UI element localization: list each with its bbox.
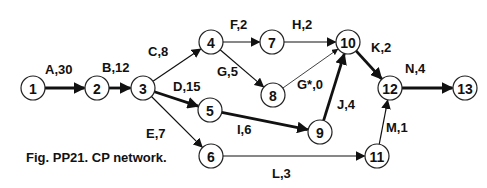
edge-label: K,2 (371, 40, 391, 55)
node-label: 2 (93, 81, 101, 97)
nodes-layer: 12345678910111213 (21, 30, 477, 168)
node-label: 13 (457, 81, 473, 97)
edge-label: M,1 (386, 120, 408, 135)
edge-label: E,7 (146, 126, 166, 141)
node-5: 5 (198, 98, 222, 122)
node-11: 11 (365, 144, 389, 168)
node-10: 10 (336, 30, 360, 54)
node-label: 8 (269, 88, 277, 104)
edge-label: A,30 (45, 62, 72, 77)
edge-label: J,4 (337, 97, 356, 112)
figure-caption: Fig. PP21. CP network. (26, 150, 167, 165)
edge-label: D,15 (173, 79, 200, 94)
node-3: 3 (131, 76, 155, 100)
node-4: 4 (199, 30, 223, 54)
node-label: 3 (139, 81, 147, 97)
edge-label: H,2 (292, 17, 312, 32)
node-label: 6 (207, 149, 215, 165)
node-label: 10 (340, 35, 356, 51)
node-6: 6 (199, 144, 223, 168)
node-label: 9 (316, 125, 324, 141)
node-label: 12 (382, 81, 398, 97)
node-13: 13 (453, 76, 477, 100)
edge-label: B,12 (102, 60, 129, 75)
edge-label: C,8 (148, 44, 168, 59)
node-label: 11 (370, 149, 385, 165)
node-label: 7 (268, 35, 276, 51)
edge-label: L,3 (272, 166, 291, 181)
edge-label: F,2 (230, 17, 247, 32)
node-8: 8 (261, 83, 285, 107)
edge-10-12 (356, 51, 381, 79)
cp-network-diagram: 12345678910111213 A,30B,12C,8D,15E,7F,2G… (0, 0, 487, 188)
edge-5-9 (222, 112, 308, 129)
edge-label: G*,0 (297, 77, 323, 92)
node-2: 2 (85, 76, 109, 100)
node-9: 9 (308, 120, 332, 144)
node-12: 12 (378, 76, 402, 100)
edge-label: N,4 (405, 61, 426, 76)
edge-label: G,5 (217, 64, 238, 79)
node-7: 7 (260, 30, 284, 54)
node-label: 5 (206, 103, 214, 119)
node-1: 1 (21, 76, 45, 100)
node-label: 1 (29, 81, 37, 97)
edge-label: I,6 (237, 122, 251, 137)
node-label: 4 (207, 35, 215, 51)
